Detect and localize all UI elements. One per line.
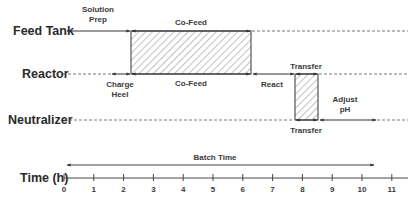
solution-prep-label-line2: Prep <box>89 15 107 24</box>
react-label: React <box>261 80 283 89</box>
tick-label: 6 <box>241 185 246 194</box>
time-axis-label: Time (h) <box>20 171 68 185</box>
tick-label: 4 <box>181 185 186 194</box>
tick-label: 11 <box>388 185 397 194</box>
solution-prep-label-line1: Solution <box>82 5 114 14</box>
tick-label: 3 <box>151 185 156 194</box>
adjust-ph-label-line1: Adjust <box>333 95 358 104</box>
adjust-ph-label-line2: pH <box>340 105 351 114</box>
transfer-bottom-label: Transfer <box>290 126 322 135</box>
transfer-top-label: Transfer <box>290 62 322 71</box>
tick-label: 0 <box>62 185 67 194</box>
tick-label: 7 <box>270 185 275 194</box>
time-axis-tick-labels: 0 1 2 3 4 5 6 7 8 9 10 11 <box>62 185 397 194</box>
tick-label: 9 <box>330 185 335 194</box>
row-label-feed-tank: Feed Tank <box>13 24 74 38</box>
row-label-neutralizer: Neutralizer <box>8 113 73 127</box>
batch-schedule-diagram: Feed Tank Reactor Neutralizer Solution P… <box>0 0 416 204</box>
tick-label: 1 <box>92 185 97 194</box>
charge-heel-label-line2: Heel <box>112 90 129 99</box>
batch-time-label: Batch Time <box>194 153 238 162</box>
cofeed-bottom-label: Co-Feed <box>175 79 207 88</box>
tick-label: 2 <box>121 185 126 194</box>
cofeed-hatched-box <box>131 31 251 74</box>
tick-label: 10 <box>358 185 367 194</box>
cofeed-top-label: Co-Feed <box>175 18 207 27</box>
transfer-hatched-box <box>295 74 318 120</box>
row-label-reactor: Reactor <box>22 67 69 81</box>
tick-label: 5 <box>211 185 216 194</box>
charge-heel-label-line1: Charge <box>106 80 134 89</box>
tick-label: 8 <box>300 185 305 194</box>
